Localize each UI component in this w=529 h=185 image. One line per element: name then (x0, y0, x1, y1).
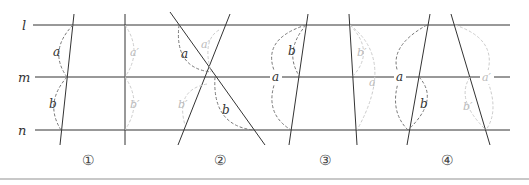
angle-label-b: b (49, 97, 57, 111)
arc-a (59, 25, 73, 77)
bottom-divider (0, 178, 529, 180)
transversal-1 (170, 12, 265, 145)
panel-2: a b a′ b′ ② (170, 12, 265, 168)
panel-3: a b a b′ ③ (270, 14, 376, 168)
panel-number-4: ④ (441, 152, 454, 168)
line-labels: l m n (18, 18, 30, 138)
panel-number-1: ① (82, 152, 95, 168)
label-l: l (22, 18, 26, 33)
arc-b (215, 77, 253, 130)
label-m: m (18, 70, 30, 85)
angle-label-b-prime: b′ (130, 98, 140, 111)
transversal-1 (407, 14, 430, 145)
angle-label-b-prime: b′ (463, 100, 473, 113)
label-n: n (18, 123, 26, 138)
transversal-1 (289, 14, 308, 145)
panel-4: a b a′ b′ ④ (394, 14, 494, 168)
angle-label-b-prime: b′ (357, 46, 367, 59)
panel-number-3: ③ (319, 152, 332, 168)
angle-label-a-prime: a′ (130, 46, 140, 59)
transversal-2 (349, 14, 357, 145)
angle-label-a-prime: a′ (482, 71, 492, 84)
angle-label-b: b (288, 44, 296, 58)
angle-label-b: b (420, 97, 428, 111)
transversal-1 (60, 14, 74, 145)
angle-label-a-prime: a (369, 76, 376, 89)
angle-label-b: b (222, 103, 230, 117)
angle-label-a: a (181, 47, 188, 61)
angle-label-a: a (396, 70, 403, 84)
panel-number-2: ② (214, 152, 227, 168)
panel-1: a b a′ b′ ① (49, 14, 140, 168)
angle-label-b-prime: b′ (178, 98, 188, 111)
angle-label-a: a (272, 70, 279, 84)
parallel-lines-diagram: l m n a b a′ b′ ① a b a′ (0, 0, 529, 185)
angle-label-a-prime: a′ (201, 38, 211, 51)
angle-label-a: a (53, 45, 60, 59)
